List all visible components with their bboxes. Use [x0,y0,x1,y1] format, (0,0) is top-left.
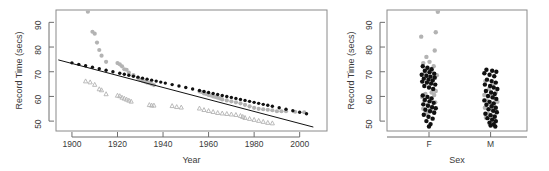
data-point-female-records [97,48,101,52]
data-point-female-records [279,109,283,113]
data-point-fitted-values [266,104,269,107]
data-point-male-records [229,112,233,116]
data-point-F-observed [427,60,431,64]
data-point-female-records [261,107,265,111]
data-point-F-fitted [430,116,434,120]
data-point-fitted-values [164,81,167,84]
data-point-F-fitted [424,119,428,123]
data-point-fitted-values [104,69,107,72]
data-point-F-fitted [420,79,424,83]
data-point-fitted-values [230,96,233,99]
data-point-male-records [84,79,88,83]
data-point-F-fitted [427,99,431,103]
data-point-M-fitted [486,94,490,98]
left-y-tick-label: 60 [33,94,43,104]
data-point-fitted-values [291,109,294,112]
data-point-male-records [104,92,108,96]
data-point-M-fitted [488,123,492,127]
data-point-M-fitted [482,98,486,102]
left-regression-line [58,60,313,127]
data-point-fitted-values [111,70,114,73]
data-point-F-fitted [433,82,437,86]
data-point-fitted-values [198,89,201,92]
data-point-F-fitted [432,72,436,76]
right-y-tick-label: 90 [364,20,374,30]
data-point-fitted-values [284,108,287,111]
data-point-female-records [266,108,270,112]
data-point-fitted-values [234,97,237,100]
data-point-fitted-values [145,77,148,80]
left-y-axis-title: Record Time (secs) [14,31,24,109]
data-point-fitted-values [216,93,219,96]
data-point-male-records [261,119,265,123]
data-point-F-observed [434,30,438,34]
series-M-fitted [482,68,499,129]
data-point-male-records [216,111,220,115]
data-point-F-fitted [431,87,435,91]
data-point-fitted-values [305,112,308,115]
right-y-tick-label: 60 [364,94,374,104]
data-point-M-fitted [494,97,498,101]
data-point-M-fitted [495,110,499,114]
data-point-F-fitted [423,69,427,73]
data-point-fitted-values [155,79,158,82]
data-point-F-fitted [426,114,430,118]
data-point-F-fitted [432,111,436,115]
data-point-fitted-values [243,99,246,102]
data-point-M-fitted [485,77,489,81]
data-point-M-fitted [483,82,487,86]
data-point-F-fitted [426,104,430,108]
left-y-tick-label: 70 [33,70,43,80]
data-point-female-records [225,98,229,102]
data-point-male-records [93,82,97,86]
data-point-female-records [275,109,279,113]
data-point-male-records [175,105,179,109]
two-panel-plot: 5060708090Record Time (secs)190019201940… [0,0,549,171]
left-x-tick-label: 1940 [154,139,173,149]
data-point-male-records [170,104,174,108]
data-point-female-records [93,32,97,36]
data-point-female-records [270,108,274,112]
data-point-F-fitted [422,113,426,117]
data-point-male-records [197,106,201,110]
data-point-fitted-values [132,74,135,77]
left-x-tick-label: 2000 [290,139,309,149]
right-x-axis-title: Sex [449,155,465,165]
data-point-M-fitted [495,87,499,91]
left-y-tick-label: 90 [33,20,43,30]
data-point-M-fitted [490,69,494,73]
data-point-fitted-values [118,72,121,75]
right-plot-box [387,10,527,131]
data-point-male-records [206,109,210,113]
left-x-axis-title: Year [182,155,200,165]
data-point-fitted-values [225,95,228,98]
data-point-male-records [179,105,183,109]
left-x-tick-label: 1980 [245,139,264,149]
data-point-F-fitted [422,84,426,88]
data-point-M-fitted [486,107,490,111]
data-point-fitted-values [207,91,210,94]
left-x-tick-label: 1960 [199,139,218,149]
right-x-tick-label: M [487,139,494,149]
data-point-F-fitted [420,72,424,76]
data-point-female-records [104,60,108,64]
data-point-F-observed [433,48,437,52]
right-y-tick-label: 50 [364,119,374,129]
data-point-F-fitted [428,109,432,113]
data-point-M-fitted [493,124,497,128]
data-point-fitted-values [159,80,162,83]
data-point-male-records [220,111,224,115]
data-point-fitted-values [271,105,274,108]
data-point-F-observed [424,55,428,59]
data-point-fitted-values [277,106,280,109]
left-data-layer [58,10,313,127]
data-point-male-records [202,108,206,112]
data-point-male-records [88,80,92,84]
data-point-fitted-values [136,75,139,78]
right-x-tick-label: F [426,139,431,149]
data-point-M-fitted [494,70,498,74]
data-point-fitted-values [191,87,194,90]
data-point-male-records [234,113,238,117]
data-point-F-fitted [427,70,431,74]
data-point-male-records [257,118,261,122]
